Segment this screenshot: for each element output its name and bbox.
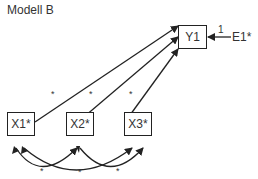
diagram-title: Modell B: [7, 3, 54, 17]
e1-path-label: 1: [218, 24, 224, 35]
cov-x1-x3-label: *: [78, 167, 82, 177]
node-x1: X1*: [7, 112, 35, 136]
cov-x2-x3-label: *: [116, 166, 120, 176]
x1-y1-path-label: *: [51, 89, 55, 99]
node-e1: E1*: [232, 30, 251, 44]
node-y1: Y1: [178, 25, 207, 49]
x3-y1-path-label: *: [129, 89, 133, 99]
x2-y1-path-label: *: [89, 89, 93, 99]
node-x3: X3*: [124, 112, 152, 136]
node-x2: X2*: [66, 112, 94, 136]
cov-x1-x2-label: *: [40, 166, 44, 176]
